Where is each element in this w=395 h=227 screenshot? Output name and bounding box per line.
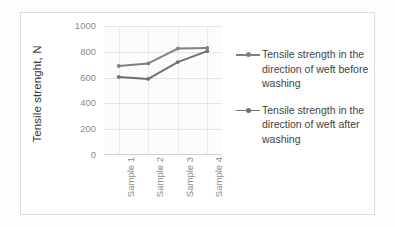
- x-tick-label: Sample 3: [183, 157, 197, 213]
- data-point: [146, 77, 150, 81]
- chart-figure: Tensile strenght, N 02004006008001000 Sa…: [0, 0, 395, 227]
- y-tick-label: 0: [91, 150, 96, 160]
- x-tick-label: Sample 1: [124, 157, 138, 213]
- data-point: [146, 62, 150, 66]
- chart-legend: Tensile strength in the direction of wef…: [236, 47, 376, 158]
- legend-marker-icon: [236, 48, 260, 61]
- y-tick-label: 1000: [75, 21, 96, 31]
- legend-item[interactable]: Tensile strength in the direction of wef…: [236, 103, 376, 147]
- data-point: [176, 60, 180, 64]
- data-point: [205, 49, 209, 53]
- legend-marker-icon: [236, 104, 260, 117]
- y-tick-label: 600: [80, 73, 96, 83]
- y-tick-label: 400: [80, 99, 96, 109]
- data-point: [117, 75, 121, 79]
- y-axis-title: Tensile strenght, N: [26, 24, 48, 164]
- x-tick-label: Sample 4: [212, 157, 226, 213]
- y-axis-tick-labels: 02004006008001000: [58, 20, 100, 161]
- legend-label: Tensile strength in the direction of wef…: [262, 47, 374, 91]
- y-axis-title-label: Tensile strenght, N: [31, 45, 43, 142]
- y-tick-label: 200: [80, 124, 96, 134]
- legend-label: Tensile strength in the direction of wef…: [262, 103, 374, 147]
- y-tick-label: 800: [80, 47, 96, 57]
- x-tick-label: Sample 2: [153, 157, 167, 213]
- data-point: [176, 47, 180, 51]
- plot-area: [104, 26, 222, 155]
- series-lines: [104, 26, 222, 155]
- legend-item[interactable]: Tensile strength in the direction of wef…: [236, 47, 376, 91]
- data-point: [117, 64, 121, 68]
- x-axis-tick-labels: Sample 1Sample 2Sample 3Sample 4: [104, 157, 222, 213]
